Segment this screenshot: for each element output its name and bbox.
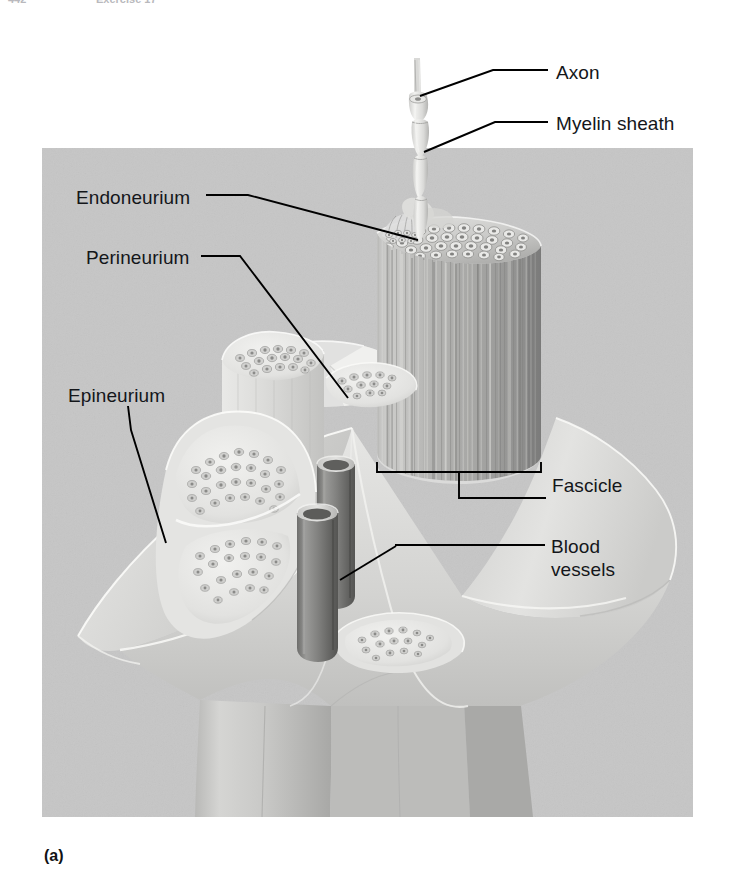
label-myelin-sheath: Myelin sheath: [556, 112, 675, 135]
label-endoneurium: Endoneurium: [76, 186, 190, 209]
leader-myelin: [424, 122, 548, 152]
figure-caption: (a): [44, 847, 64, 865]
label-epineurium: Epineurium: [68, 384, 165, 407]
blood-vessel-front: [297, 504, 339, 662]
leader-axon: [420, 70, 548, 96]
main-fascicle: [374, 198, 546, 488]
label-blood-vessels: Blood vessels: [551, 535, 643, 581]
figure-page: 442 Exercise 17: [0, 0, 739, 888]
nerve-trunk: [195, 700, 533, 817]
nerve-anatomy-figure: Axon Myelin sheath Endoneurium Perineuri…: [0, 0, 739, 830]
label-perineurium: Perineurium: [86, 246, 190, 269]
label-axon: Axon: [556, 61, 600, 84]
label-fascicle: Fascicle: [552, 474, 622, 497]
